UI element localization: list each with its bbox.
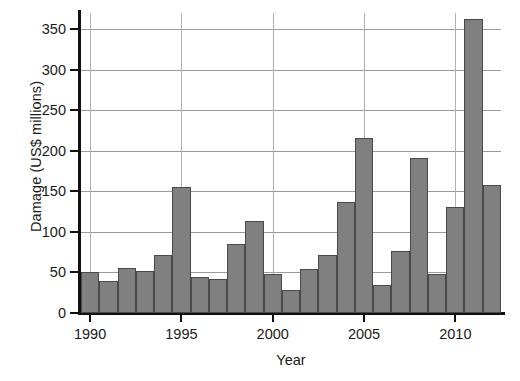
x-tick-mark-2010 — [454, 314, 456, 322]
gridline-y-150 — [81, 191, 501, 192]
bar-2002 — [300, 269, 318, 313]
x-tick-label-2005: 2005 — [334, 327, 394, 342]
x-tick-mark-2000 — [272, 314, 274, 322]
y-tick-mark-100 — [70, 231, 79, 233]
gridline-y-200 — [81, 151, 501, 152]
plot-inner — [81, 13, 501, 313]
x-tick-label-2010: 2010 — [425, 327, 485, 342]
x-tick-mark-1995 — [180, 314, 182, 322]
bar-2007 — [391, 251, 409, 313]
bar-2004 — [337, 202, 355, 313]
bar-1999 — [245, 221, 263, 313]
y-tick-label-50: 50 — [22, 265, 66, 280]
y-tick-mark-0 — [70, 312, 79, 314]
bar-2006 — [373, 285, 391, 313]
bar-1996 — [191, 277, 209, 313]
x-tick-mark-2005 — [363, 314, 365, 322]
bar-2012 — [483, 185, 501, 313]
bar-chart-figure: Damage (US$ millions) 050100150200250300… — [0, 0, 520, 381]
y-tick-mark-200 — [70, 150, 79, 152]
bar-1995 — [172, 187, 190, 313]
y-tick-label-250: 250 — [22, 103, 66, 118]
bar-2003 — [318, 255, 336, 313]
y-tick-mark-150 — [70, 190, 79, 192]
y-tick-mark-50 — [70, 271, 79, 273]
bar-1993 — [136, 271, 154, 313]
x-axis-title: Year — [81, 352, 501, 368]
y-tick-label-0: 0 — [22, 306, 66, 321]
gridline-y-250 — [81, 110, 501, 111]
bar-1997 — [209, 279, 227, 313]
bar-2009 — [428, 274, 446, 313]
y-tick-label-150: 150 — [22, 184, 66, 199]
x-tick-label-2000: 2000 — [243, 327, 303, 342]
y-tick-label-350: 350 — [22, 22, 66, 37]
bar-2005 — [355, 138, 373, 313]
bar-1994 — [154, 255, 172, 313]
y-tick-mark-300 — [70, 69, 79, 71]
y-tick-mark-250 — [70, 109, 79, 111]
gridline-y-350 — [81, 29, 501, 30]
bar-2008 — [410, 158, 428, 313]
y-tick-label-100: 100 — [22, 225, 66, 240]
bar-2001 — [282, 290, 300, 314]
bar-1992 — [118, 268, 136, 313]
y-tick-mark-350 — [70, 28, 79, 30]
gridline-y-300 — [81, 70, 501, 71]
bar-2010 — [446, 207, 464, 313]
bar-1990 — [81, 272, 99, 313]
bar-1998 — [227, 244, 245, 313]
plot-area — [81, 13, 501, 313]
gridline-x-2000 — [273, 13, 274, 313]
x-tick-mark-1990 — [89, 314, 91, 322]
bar-1991 — [99, 281, 117, 313]
bar-2011 — [464, 19, 482, 313]
gridline-y-100 — [81, 232, 501, 233]
y-tick-label-300: 300 — [22, 63, 66, 78]
x-tick-label-1990: 1990 — [60, 327, 120, 342]
bar-2000 — [264, 274, 282, 313]
gridline-x-1990 — [90, 13, 91, 313]
y-tick-label-200: 200 — [22, 144, 66, 159]
x-tick-label-1995: 1995 — [151, 327, 211, 342]
